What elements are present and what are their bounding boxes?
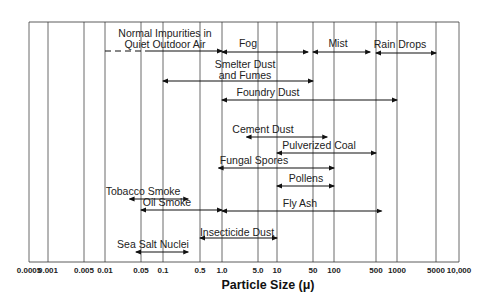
x-tick-label: 1000 xyxy=(388,266,406,275)
range-arrow: Normal Impurities inQuiet Outdoor Air xyxy=(105,27,222,51)
range-arrow: Mist xyxy=(313,37,370,52)
x-tick-label: 0.005 xyxy=(74,266,95,275)
x-tick-label: 1.0 xyxy=(216,266,228,275)
range-arrow: Insecticide Dust xyxy=(200,226,277,238)
range-label: Foundry Dust xyxy=(236,86,299,98)
x-tick-label: 10 xyxy=(273,266,282,275)
range-arrow: Oil Smoke xyxy=(141,196,222,210)
range-label: Quiet Outdoor Air xyxy=(124,38,206,50)
x-tick-label: 0.5 xyxy=(194,266,206,275)
x-tick-label: 0.001 xyxy=(38,266,59,275)
x-tick-label: 5000 xyxy=(427,266,445,275)
range-label: Fungal Spores xyxy=(220,154,288,166)
x-tick-label: 50 xyxy=(309,266,318,275)
x-tick-label: 0.01 xyxy=(97,266,113,275)
range-label: Insecticide Dust xyxy=(200,226,274,238)
range-arrow: Pollens xyxy=(277,172,334,186)
range-label: Rain Drops xyxy=(374,38,427,50)
range-label: Cement Dust xyxy=(232,123,293,135)
x-axis-title: Particle Size (μ) xyxy=(221,278,314,292)
x-tick-label: 100 xyxy=(327,266,341,275)
range-label: Sea Salt Nuclei xyxy=(117,238,189,250)
x-tick-label: 0.05 xyxy=(133,266,149,275)
range-arrow: Smelter Dustand Fumes xyxy=(163,58,313,81)
range-arrow: Fungal Spores xyxy=(219,154,334,168)
particle-range-arrows: Normal Impurities inQuiet Outdoor AirFog… xyxy=(105,27,436,252)
range-label: and Fumes xyxy=(219,69,272,81)
particle-size-chart: 0.00050.0010.0050.010.050.10.51.05.01050… xyxy=(0,0,488,307)
x-tick-label: 5.0 xyxy=(252,266,264,275)
range-arrow: Pulverized Coal xyxy=(277,139,376,153)
x-tick-label: 10,000 xyxy=(447,266,472,275)
range-arrow: Fly Ash xyxy=(222,197,382,211)
range-arrow: Foundry Dust xyxy=(222,86,397,100)
range-label: Mist xyxy=(328,37,347,49)
x-tick-label: 500 xyxy=(369,266,383,275)
range-label: Oil Smoke xyxy=(143,196,192,208)
range-arrow: Sea Salt Nuclei xyxy=(117,238,189,252)
range-label: Pollens xyxy=(289,172,323,184)
range-arrow: Fog xyxy=(222,37,308,52)
range-label: Fog xyxy=(239,37,257,49)
range-arrow: Rain Drops xyxy=(374,38,436,53)
range-label: Fly Ash xyxy=(283,197,318,209)
range-label: Pulverized Coal xyxy=(282,139,356,151)
x-axis-tick-labels: 0.00050.0010.0050.010.050.10.51.05.01050… xyxy=(17,266,472,275)
x-tick-label: 0.1 xyxy=(157,266,169,275)
